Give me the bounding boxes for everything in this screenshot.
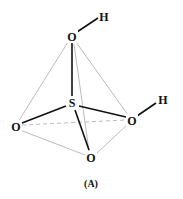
- atom-oxygen-bottom: O: [86, 151, 95, 165]
- edge-top-right: [76, 42, 128, 115]
- bond-s-o-left: [22, 106, 66, 123]
- atom-oxygen-top: O: [67, 30, 76, 44]
- tetrahedral-structure: O H S O O H O (A): [0, 0, 183, 199]
- atom-oxygen-left: O: [11, 120, 20, 134]
- edge-left-bottom: [20, 130, 85, 155]
- figure-caption: (A): [84, 178, 98, 190]
- bond-s-o-right: [79, 106, 126, 117]
- atom-sulfur: S: [69, 96, 76, 110]
- edge-top-left: [18, 42, 68, 122]
- atom-hydrogen-right: H: [158, 93, 168, 107]
- atom-oxygen-right: O: [127, 114, 136, 128]
- bond-s-o-bottom: [75, 110, 89, 150]
- atom-hydrogen-top: H: [99, 10, 109, 24]
- edge-left-right-hidden: [22, 120, 126, 125]
- molecule-diagram: O H S O O H O (A): [0, 0, 183, 199]
- edge-right-bottom: [97, 124, 128, 153]
- bond-o-h-right: [137, 103, 156, 116]
- bond-o-h-top: [77, 18, 98, 32]
